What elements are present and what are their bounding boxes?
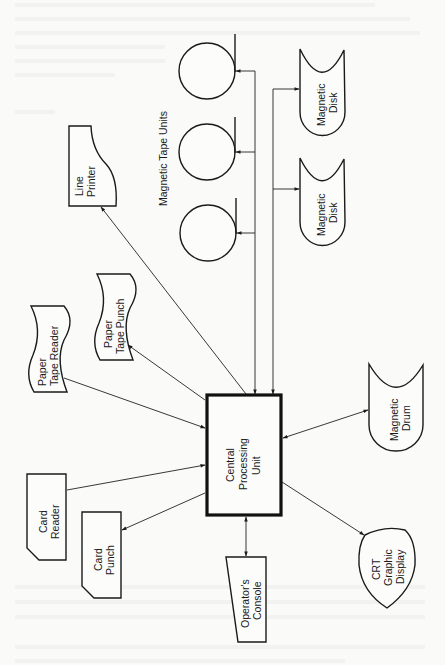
paper-tape-punch[interactable]: Paper Tape Punch — [95, 274, 136, 360]
pt-punch-label-line1: Paper — [102, 319, 114, 348]
card-reader-label-line2: Reader — [49, 504, 61, 539]
disk-label-line2: Disk — [327, 92, 339, 113]
drum-label-line1: Magnetic — [388, 398, 400, 441]
line-printer[interactable]: Line Printer — [69, 126, 116, 206]
drum-label-line2: Drum — [400, 405, 412, 431]
crt-label-line1: CRT — [370, 558, 382, 580]
edge-cpu-ptpunch — [128, 345, 205, 400]
cpu-label-line2: Processing — [237, 438, 249, 490]
magnetic-disk-2[interactable]: Magnetic Disk — [300, 158, 345, 246]
system-diagram: Magnetic Tape Units Magnetic Disk Magnet… — [0, 0, 445, 665]
card-punch-label-line2: Punch — [104, 545, 116, 575]
diagram-canvas: Magnetic Tape Units Magnetic Disk Magnet… — [0, 0, 445, 665]
tape-reel-icon — [179, 43, 235, 99]
console-label-line2: Console — [251, 581, 263, 620]
edge-cpu-cardpunch — [122, 493, 205, 530]
card-reader-label-line1: Card — [37, 510, 49, 533]
magnetic-disk-1[interactable]: Magnetic Disk — [300, 49, 345, 136]
pt-punch-label-line2: Tape Punch — [114, 298, 126, 354]
magnetic-tape-unit-2[interactable] — [179, 117, 235, 180]
magnetic-drum[interactable]: Magnetic Drum — [369, 364, 423, 451]
pt-reader-label-line2: Tape Reader — [48, 325, 60, 386]
printer-label-line1: Line — [73, 176, 85, 196]
crt-graphic-display[interactable]: CRT Graphic Display — [359, 528, 415, 608]
tape-reel-icon — [179, 124, 235, 180]
cpu-label-line1: Central — [224, 448, 236, 482]
edge-cpu-crt — [282, 482, 364, 535]
edge-cpu-drum — [283, 410, 368, 438]
edge-cardreader-cpu — [67, 465, 205, 490]
disk-label-line1: Magnetic — [315, 83, 327, 126]
paper-tape-reader[interactable]: Paper Tape Reader — [29, 306, 70, 392]
crt-label-line2: Graphic — [382, 549, 394, 586]
tape-reel-icon — [180, 205, 236, 261]
card-punch-label-line1: Card — [92, 548, 104, 571]
card-reader[interactable]: Card Reader — [27, 474, 66, 560]
edge-ptreader-cpu — [64, 378, 205, 428]
disk-label-line1: Magnetic — [315, 193, 327, 236]
magnetic-tape-unit-1[interactable] — [179, 34, 235, 99]
magnetic-tape-unit-3[interactable] — [180, 198, 236, 261]
printer-label-line2: Printer — [85, 166, 97, 197]
disk-label-line2: Disk — [327, 202, 339, 223]
pt-reader-label-line1: Paper — [36, 357, 48, 386]
central-processing-unit[interactable]: Central Processing Unit — [207, 395, 281, 515]
console-label-line1: Operator's — [239, 579, 251, 628]
cpu-label-line3: Unit — [250, 456, 262, 475]
crt-label-line3: Display — [394, 549, 406, 584]
magnetic-tape-units-label: Magnetic Tape Units — [157, 111, 169, 206]
operators-console[interactable]: Operator's Console — [226, 557, 266, 642]
card-punch[interactable]: Card Punch — [82, 512, 121, 598]
